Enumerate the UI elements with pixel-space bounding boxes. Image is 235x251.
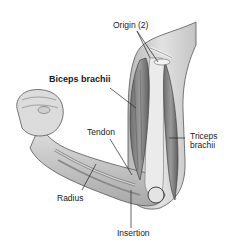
label-origin: Origin (2) (113, 21, 148, 30)
label-radius: Radius (57, 194, 83, 203)
arm-illustration (0, 0, 235, 251)
label-tendon: Tendon (87, 128, 115, 137)
label-biceps-brachii: Biceps brachii (49, 75, 111, 84)
label-insertion: Insertion (117, 229, 150, 238)
label-triceps-brachii: Triceps brachii (190, 132, 218, 150)
anatomy-diagram: Origin (2) Biceps brachii Tendon Triceps… (0, 0, 235, 251)
fist (17, 90, 63, 136)
label-triceps-line2: brachii (190, 140, 215, 150)
